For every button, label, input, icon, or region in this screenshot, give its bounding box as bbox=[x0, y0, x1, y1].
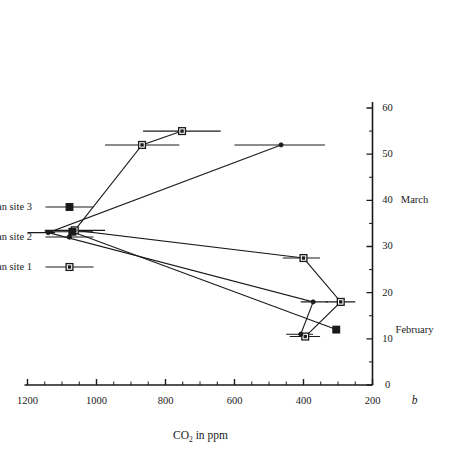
figure-rotated-container: 120010008006004002000102030405060Februar… bbox=[0, 0, 449, 452]
x-tick-label: 40 bbox=[382, 195, 393, 206]
x-axis-ticks bbox=[366, 108, 372, 385]
x-tick-label: 60 bbox=[382, 103, 393, 114]
y-tick-label: 400 bbox=[295, 396, 311, 407]
x-tick-label: 0 bbox=[384, 380, 389, 391]
legend-label-1: Mean site 1 bbox=[0, 262, 32, 273]
y-tick-label: 1200 bbox=[17, 396, 38, 407]
x-tick-label: 10 bbox=[382, 334, 393, 345]
month-label: March bbox=[400, 195, 427, 206]
panel-label: b bbox=[411, 395, 417, 407]
x-tick-label: 50 bbox=[382, 149, 393, 160]
series-markers bbox=[46, 128, 344, 340]
y-tick-label: 800 bbox=[157, 396, 173, 407]
x-tick-label: 30 bbox=[382, 241, 393, 252]
series-lines bbox=[48, 131, 341, 336]
y-axis-ticks bbox=[27, 379, 372, 385]
legend-label-3: Mean site 3 bbox=[0, 202, 32, 213]
plot-area bbox=[0, 0, 449, 452]
y-axis-title: CO2 in ppm bbox=[172, 430, 227, 444]
chart-figure: 120010008006004002000102030405060Februar… bbox=[0, 0, 449, 452]
y-tick-label: 200 bbox=[364, 396, 380, 407]
legend-label-2: Mean site 2 bbox=[0, 232, 32, 243]
y-tick-label: 600 bbox=[226, 396, 242, 407]
month-label: February bbox=[395, 324, 433, 335]
y-tick-label: 1000 bbox=[86, 396, 107, 407]
x-tick-label: 20 bbox=[382, 287, 393, 298]
legend-markers bbox=[45, 204, 93, 271]
